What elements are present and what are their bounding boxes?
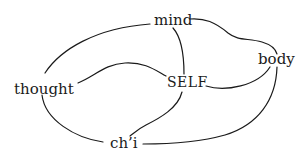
edge-mind-body: [190, 19, 277, 54]
edge-body-chi: [143, 67, 277, 144]
node-thought: thought: [14, 82, 74, 97]
node-mind: mind: [154, 13, 192, 28]
edge-thought-chi: [42, 95, 103, 142]
edge-thought-self: [78, 63, 166, 83]
edge-self-body: [206, 67, 270, 88]
node-body: body: [258, 52, 295, 67]
edge-mind-self: [173, 28, 184, 74]
node-chi: ch’i: [110, 136, 138, 151]
edge-thought-mind: [45, 24, 150, 73]
edge-self-chi: [130, 92, 182, 136]
concept-diagram: mind body SELF thought ch’i: [0, 0, 308, 159]
node-self: SELF: [167, 75, 208, 89]
